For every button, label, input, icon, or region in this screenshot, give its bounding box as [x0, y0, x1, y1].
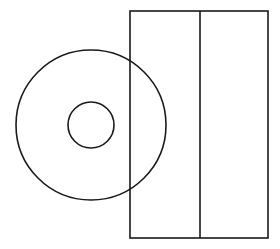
diagram-canvas	[0, 0, 280, 249]
case-outline	[130, 11, 268, 238]
case	[130, 11, 268, 238]
disc-center-hole	[68, 102, 114, 148]
disc-outer-circle	[16, 50, 166, 200]
disc	[16, 50, 166, 200]
